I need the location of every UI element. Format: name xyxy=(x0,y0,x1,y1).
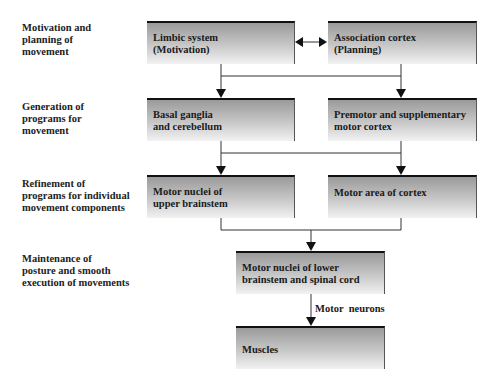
node-line: Association cortex xyxy=(334,32,416,44)
node-line: Premotor and supplementary xyxy=(334,109,466,121)
node-line: Muscles xyxy=(242,344,278,356)
node-line: (Motivation) xyxy=(153,44,218,56)
node-line: upper brainstem xyxy=(153,198,228,210)
node-line: Motor area of cortex xyxy=(334,187,427,199)
node-line: (Planning) xyxy=(334,44,416,56)
node-text: Muscles xyxy=(242,344,278,356)
node-line: Limbic system xyxy=(153,32,218,44)
node-limbic-system: Limbic system (Motivation) xyxy=(147,21,295,64)
node-line: brainstem and spinal cord xyxy=(242,274,360,286)
node-line: Motor nuclei of lower xyxy=(242,262,360,274)
node-line: Basal ganglia xyxy=(153,109,222,121)
node-line: motor cortex xyxy=(334,121,466,133)
node-text: Limbic system (Motivation) xyxy=(153,32,218,56)
node-lower-brainstem: Motor nuclei of lower brainstem and spin… xyxy=(236,251,385,294)
node-association-cortex: Association cortex (Planning) xyxy=(328,21,477,64)
node-basal-ganglia: Basal ganglia and cerebellum xyxy=(147,98,295,141)
node-premotor-cortex: Premotor and supplementary motor cortex xyxy=(328,98,477,141)
node-upper-brainstem: Motor nuclei of upper brainstem xyxy=(147,175,295,218)
node-text: Premotor and supplementary motor cortex xyxy=(334,109,466,133)
node-motor-area-cortex: Motor area of cortex xyxy=(328,175,477,218)
node-line: Motor nuclei of xyxy=(153,186,228,198)
node-text: Motor nuclei of upper brainstem xyxy=(153,186,228,210)
node-line: and cerebellum xyxy=(153,121,222,133)
node-text: Motor area of cortex xyxy=(334,187,427,199)
edge-label-motor-neurons: Motor neurons xyxy=(315,303,385,314)
node-text: Motor nuclei of lower brainstem and spin… xyxy=(242,262,360,286)
node-text: Basal ganglia and cerebellum xyxy=(153,109,222,133)
node-text: Association cortex (Planning) xyxy=(334,32,416,56)
node-muscles: Muscles xyxy=(236,326,385,369)
